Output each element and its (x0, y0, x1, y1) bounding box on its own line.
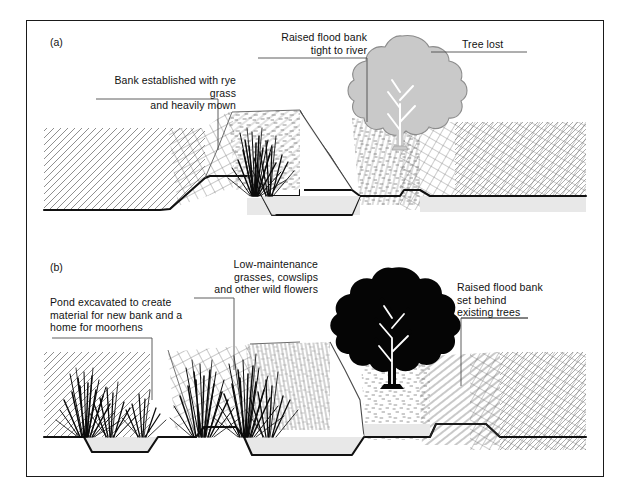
label-tree-lost: Tree lost (462, 38, 538, 51)
label-pond-excavated: Pond excavated to create material for ne… (50, 296, 210, 334)
label-bank-established-rye-grass: Bank established with rye grass and heav… (86, 74, 236, 112)
panel-b-channel-water (244, 437, 364, 455)
panel-b-berm-water (364, 424, 430, 437)
panel-a-graphics (44, 36, 590, 215)
panel-b-tag: (b) (50, 261, 63, 273)
panel-b-pond-water (84, 437, 158, 452)
label-low-maintenance-grasses: Low-maintenance grasses, cowslips and ot… (190, 258, 318, 296)
panel-a-water-right (420, 196, 586, 212)
label-raised-flood-bank-set-behind: Raised flood bank set behind existing tr… (457, 281, 567, 319)
label-raised-flood-bank-tight-to-river: Raised flood bank tight to river (252, 31, 367, 56)
panel-a-tag: (a) (50, 36, 63, 48)
panel-a-water-body (262, 196, 360, 214)
tree-base (392, 146, 408, 150)
panel-b-ground-textures (44, 336, 592, 451)
river-management-cross-section-figure: (a) (b) Bank established with rye grass … (0, 0, 627, 499)
tree-base (380, 384, 404, 389)
